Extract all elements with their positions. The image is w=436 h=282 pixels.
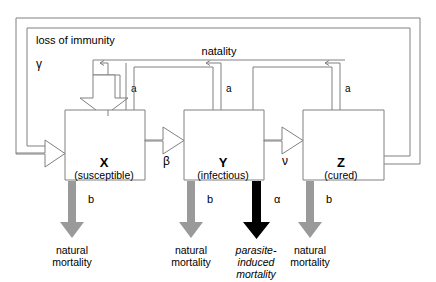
mortality-label-y-line1: natural [175, 244, 207, 256]
natality-rate-z: a [345, 83, 351, 94]
diagram-canvas: a a a β ν X (susceptible) Y (infectious)… [0, 0, 436, 282]
transition-arrow-y-to-z [264, 127, 303, 154]
transition-arrow-x-to-y [145, 127, 184, 154]
parasite-mortality-label-line2: induced [238, 256, 276, 268]
compartment-state-z: (cured) [324, 169, 357, 181]
mortality-rate-z: b [326, 193, 332, 205]
mortality-arrow-y [179, 181, 203, 238]
parasite-mortality-label-line3: mortality [236, 268, 276, 280]
compartment-symbol-y: Y [219, 155, 228, 170]
parasite-induced-mortality-rate: α [274, 193, 281, 205]
loss-of-immunity-label: loss of immunity [36, 34, 115, 46]
mortality-label-y-line2: mortality [171, 256, 211, 268]
mortality-label-z-line2: mortality [290, 256, 330, 268]
natality-rate-y: a [226, 83, 232, 94]
mortality-label-x-line2: mortality [52, 256, 92, 268]
natality-label: natality [202, 45, 237, 57]
mortality-label-z-line1: natural [294, 244, 326, 256]
parasite-mortality-label-line1: parasite- [235, 244, 277, 256]
loss-of-immunity-rate: γ [36, 57, 42, 71]
parasite-induced-mortality-arrow [243, 181, 270, 239]
compartment-state-y: (infectious) [197, 169, 248, 181]
compartment-state-x: (susceptible) [74, 169, 134, 181]
compartment-model-diagram: a a a β ν X (susceptible) Y (infectious)… [0, 0, 436, 282]
mortality-rate-x: b [88, 193, 94, 205]
loss-of-immunity-arrow-into-x [16, 140, 65, 167]
mortality-arrow-x [60, 181, 84, 238]
transition-rate-beta: β [163, 154, 170, 168]
mortality-arrow-z [298, 181, 322, 238]
mortality-rate-y: b [207, 193, 213, 205]
compartment-symbol-x: X [100, 155, 109, 170]
compartment-symbol-z: Z [337, 155, 345, 170]
transition-rate-nu: ν [282, 154, 288, 168]
mortality-label-x-line1: natural [56, 244, 88, 256]
